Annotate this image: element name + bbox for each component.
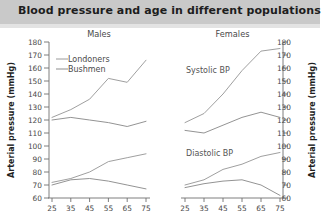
x-tick-label: 75 bbox=[275, 204, 285, 213]
panel-header-females: Females bbox=[216, 29, 250, 39]
y-tick-label-left: 90 bbox=[33, 155, 43, 164]
title-bar: Blood pressure and age in different popu… bbox=[0, 0, 320, 24]
y-tick-label-left: 170 bbox=[28, 51, 42, 60]
annotation-diastolic-bp: Diastolic BP bbox=[186, 149, 233, 158]
blood-pressure-line-chart: 1801801701701601601501501401401301301201… bbox=[0, 28, 320, 218]
x-tick-label: 65 bbox=[122, 204, 132, 213]
x-tick-label: 55 bbox=[104, 204, 114, 213]
y-tick-label-left: 180 bbox=[28, 38, 42, 47]
legend-label-bushmen: Bushmen bbox=[68, 65, 106, 74]
y-tick-label-left: 130 bbox=[28, 103, 42, 112]
x-tick-label: 25 bbox=[180, 204, 190, 213]
x-tick-label: 45 bbox=[85, 204, 95, 213]
y-tick-label-left: 110 bbox=[28, 129, 42, 138]
y-tick-label-right: 180 bbox=[277, 38, 291, 47]
y-tick-label-left: 100 bbox=[28, 142, 42, 151]
page-title: Blood pressure and age in different popu… bbox=[18, 4, 321, 17]
y-tick-label-left: 160 bbox=[28, 64, 42, 73]
series-line-bushmen-systolic bbox=[52, 117, 146, 126]
series-line-bushmen-diastolic bbox=[185, 180, 280, 196]
y-tick-label-left: 80 bbox=[33, 168, 43, 177]
annotation-systolic-bp: Systolic BP bbox=[186, 66, 230, 75]
panel-header-males: Males bbox=[87, 29, 111, 39]
y-tick-label-right: 130 bbox=[277, 103, 291, 112]
y-tick-label-right: 150 bbox=[277, 77, 291, 86]
y-tick-label-left: 60 bbox=[33, 194, 43, 203]
y-tick-label-right: 70 bbox=[282, 181, 292, 190]
y-tick-label-left: 70 bbox=[33, 181, 43, 190]
y-tick-label-right: 140 bbox=[277, 90, 291, 99]
series-line-bushmen-diastolic bbox=[52, 179, 146, 189]
y-axis-title-right: Arterial pressure (mmHg) bbox=[308, 62, 317, 178]
y-tick-label-left: 150 bbox=[28, 77, 42, 86]
series-line-londoners-systolic bbox=[185, 49, 280, 123]
y-tick-label-right: 100 bbox=[277, 142, 291, 151]
y-tick-label-left: 140 bbox=[28, 90, 42, 99]
x-tick-label: 35 bbox=[66, 204, 76, 213]
x-tick-label: 75 bbox=[141, 204, 151, 213]
x-tick-label: 25 bbox=[47, 204, 57, 213]
y-tick-label-right: 170 bbox=[277, 51, 291, 60]
plot-area: 1801801701701601601501501401401301301201… bbox=[0, 28, 320, 218]
y-tick-label-right: 160 bbox=[277, 64, 291, 73]
x-tick-label: 45 bbox=[218, 204, 228, 213]
x-tick-label: 65 bbox=[256, 204, 266, 213]
legend-label-londoners: Londoners bbox=[68, 55, 110, 64]
y-tick-label-right: 80 bbox=[282, 168, 292, 177]
x-tick-label: 55 bbox=[237, 204, 247, 213]
y-tick-label-right: 110 bbox=[277, 129, 291, 138]
series-line-londoners-diastolic bbox=[52, 154, 146, 183]
y-tick-label-left: 120 bbox=[28, 116, 42, 125]
y-tick-label-right: 90 bbox=[282, 155, 292, 164]
x-tick-label: 35 bbox=[199, 204, 209, 213]
y-axis-title-left: Arterial pressure (mmHg) bbox=[7, 62, 16, 178]
